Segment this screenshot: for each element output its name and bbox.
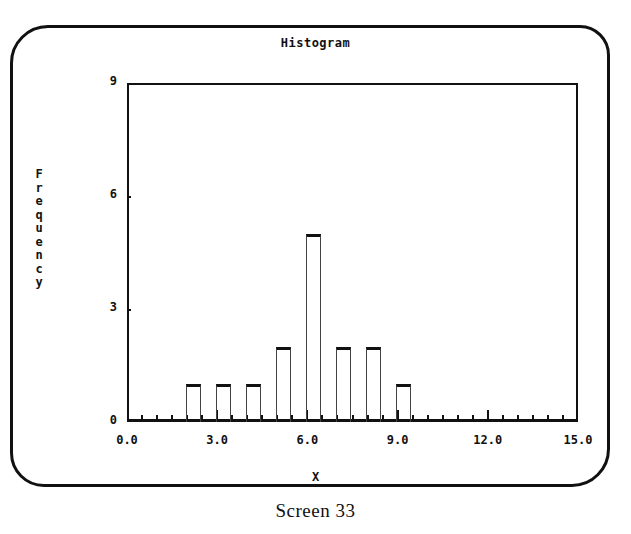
- screen-caption: Screen 33: [0, 500, 631, 522]
- x-tick-mark: [201, 415, 203, 422]
- x-axis-label: X: [0, 470, 631, 484]
- x-tick-mark: [532, 415, 534, 422]
- x-tick-label: 6.0: [282, 433, 332, 447]
- x-tick-label: 0.0: [102, 433, 152, 447]
- plot-area: [127, 83, 578, 422]
- histogram-bar: [246, 384, 261, 422]
- x-tick-mark: [487, 410, 489, 422]
- x-tick-mark: [291, 415, 293, 422]
- x-tick-label: 3.0: [192, 433, 242, 447]
- x-tick-mark: [321, 415, 323, 422]
- x-tick-label: 15.0: [553, 433, 603, 447]
- x-tick-mark: [442, 415, 444, 422]
- histogram-bar: [306, 234, 321, 422]
- y-tick-mark: [127, 196, 131, 198]
- x-tick-label: 12.0: [463, 433, 513, 447]
- y-tick-mark: [127, 309, 131, 311]
- x-tick-mark: [517, 415, 519, 422]
- x-tick-label: 9.0: [373, 433, 423, 447]
- x-tick-mark: [427, 415, 429, 422]
- histogram-bar: [366, 347, 381, 422]
- x-tick-mark: [171, 415, 173, 422]
- x-tick-mark: [231, 415, 233, 422]
- chart-title: Histogram: [0, 36, 631, 50]
- histogram-bar: [186, 384, 201, 422]
- y-tick-label: 6: [97, 187, 117, 201]
- histogram-bar: [276, 347, 291, 422]
- x-tick-mark: [502, 415, 504, 422]
- x-tick-mark: [562, 415, 564, 422]
- x-tick-mark: [457, 415, 459, 422]
- x-tick-mark: [472, 415, 474, 422]
- x-tick-mark: [382, 415, 384, 422]
- x-tick-mark: [156, 415, 158, 422]
- x-tick-mark: [261, 415, 263, 422]
- histogram-bar: [396, 384, 411, 422]
- y-tick-label: 3: [97, 300, 117, 314]
- x-tick-mark: [547, 415, 549, 422]
- y-tick-label: 0: [97, 413, 117, 427]
- x-tick-mark: [352, 415, 354, 422]
- y-axis-label: Frequency: [33, 168, 45, 290]
- histogram-bar: [216, 384, 231, 422]
- y-tick-label: 9: [97, 74, 117, 88]
- x-tick-mark: [412, 415, 414, 422]
- x-tick-mark: [141, 415, 143, 422]
- histogram-bar: [336, 347, 351, 422]
